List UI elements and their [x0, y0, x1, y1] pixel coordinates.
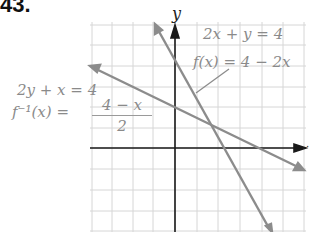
finv-denominator: 2	[92, 116, 152, 135]
label-eq1: 2x + y = 4	[203, 27, 283, 42]
label-pointer	[196, 69, 229, 93]
y-axis-label: y	[172, 4, 181, 23]
y-axis-arrow-icon	[171, 25, 179, 38]
finv-fraction: 4 − x 2	[92, 96, 152, 135]
x-axis-label: .	[306, 138, 309, 149]
line-f-inverse-arrow-icon-end	[294, 163, 304, 170]
label-eq2: 2y + x = 4	[17, 83, 97, 98]
label-finv: f⁻¹(x) =	[12, 105, 69, 120]
finv-numerator: 4 − x	[92, 96, 152, 116]
label-f: f(x) = 4 − 2x	[193, 55, 290, 70]
